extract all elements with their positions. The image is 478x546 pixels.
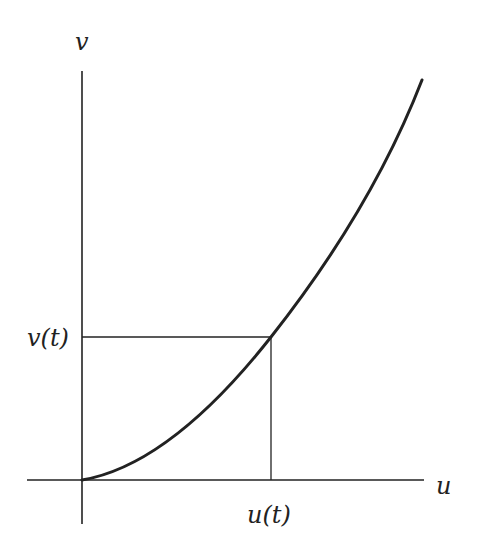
curve	[82, 80, 422, 480]
diagram-canvas	[0, 0, 478, 546]
u-t-label: u(t)	[247, 503, 291, 527]
u-axis-label: u	[436, 474, 451, 498]
v-t-label: v(t)	[27, 326, 69, 350]
v-axis-label: v	[75, 30, 89, 54]
